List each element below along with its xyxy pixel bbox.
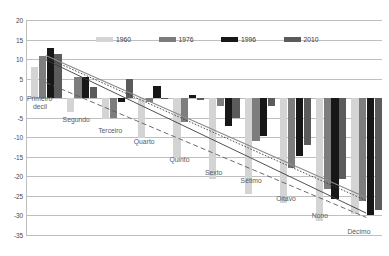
category-label: Sétimo bbox=[241, 177, 262, 186]
y-axis-tick: 15 bbox=[16, 36, 23, 43]
legend-item: 2010 bbox=[284, 37, 347, 44]
y-axis-tick: -25 bbox=[14, 192, 23, 199]
y-axis-tick: -15 bbox=[14, 153, 23, 160]
y-axis-tick: 5 bbox=[19, 75, 23, 82]
category-label: Quinto bbox=[169, 156, 189, 165]
legend-item: 1960 bbox=[96, 37, 159, 44]
y-axis-tick: -10 bbox=[14, 134, 23, 141]
legend-label: 1960 bbox=[116, 37, 131, 44]
legend-label: 1996 bbox=[241, 37, 256, 44]
category-label: Décimo bbox=[347, 228, 370, 237]
category-label: Primeirodecil bbox=[27, 95, 52, 112]
y-axis-tick: -30 bbox=[14, 212, 23, 219]
legend-swatch bbox=[221, 37, 238, 42]
legend-label: 2010 bbox=[304, 37, 319, 44]
category-label: Segundo bbox=[63, 116, 90, 125]
category-label: Terceiro bbox=[98, 127, 122, 136]
category-label-line2: decil bbox=[33, 103, 52, 112]
category-label: Sexto bbox=[205, 169, 222, 178]
y-axis-tick: 0 bbox=[19, 95, 23, 102]
legend-item: 1976 bbox=[159, 37, 222, 44]
chart-legend: 1960197619962010 bbox=[96, 34, 346, 46]
y-axis-tick: -35 bbox=[14, 232, 23, 239]
trendline bbox=[46, 60, 366, 213]
legend-swatch bbox=[96, 37, 113, 42]
y-axis-tick: -20 bbox=[14, 173, 23, 180]
y-axis-tick: -5 bbox=[17, 114, 23, 121]
trendline bbox=[46, 58, 366, 201]
gridline bbox=[26, 235, 382, 236]
y-axis-tick: 10 bbox=[16, 56, 23, 63]
chart-container: 20151050-5-10-15-20-25-30-35 Primeirodec… bbox=[0, 0, 389, 256]
trendline bbox=[46, 83, 366, 218]
y-axis-tick-labels: 20151050-5-10-15-20-25-30-35 bbox=[0, 20, 23, 235]
category-label: Oitavo bbox=[276, 195, 296, 204]
category-label: Nono bbox=[312, 212, 328, 221]
plot-area: PrimeirodecilSegundoTerceiroQuartoQuinto… bbox=[26, 20, 382, 235]
legend-swatch bbox=[159, 37, 176, 42]
y-axis-tick: 20 bbox=[16, 17, 23, 24]
legend-label: 1976 bbox=[179, 37, 194, 44]
category-label: Quarto bbox=[134, 138, 155, 147]
legend-swatch bbox=[284, 37, 301, 42]
trendlines-layer bbox=[26, 20, 382, 235]
legend-item: 1996 bbox=[221, 37, 284, 44]
